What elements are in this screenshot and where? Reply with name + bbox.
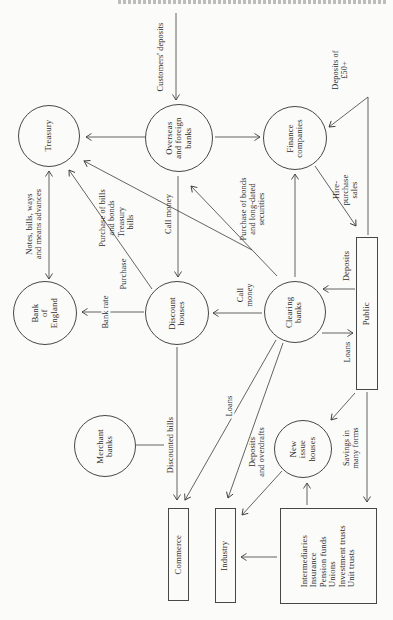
node-discount-houses: Discount houses (145, 281, 209, 345)
node-label-treasury: Treasury (44, 120, 53, 152)
edge-label-savings-many-forms: Savings in many forms (342, 427, 360, 468)
edge-label-customers-deposits: Customers' deposits (156, 23, 165, 92)
edge-public-to-new-issue (331, 393, 355, 420)
edge-label-bank-rate: Bank rate (101, 293, 110, 330)
node-label-industry: Industry (221, 540, 230, 570)
node-new-issue-houses: New issue houses (274, 420, 332, 478)
edge-label-deposits-public: Deposits (342, 251, 351, 281)
node-intermediaries: Intermediaries Insurance Pension funds U… (280, 508, 377, 604)
edge-label-notes-bills-ways: Notes, bills, ways and means advances (25, 189, 43, 259)
edge-label-purchase-bonds-long-dated: Purchase of bonds and long-dated securit… (239, 177, 267, 240)
scanned-diagram-page: TreasuryOverseas and foreign banksFinanc… (0, 0, 393, 620)
edge-label-treasury-bills: Treasury bills (117, 207, 135, 237)
edge-label-purchase: Purchase (119, 258, 128, 289)
node-label-bank-of-england: Bank of England (31, 298, 59, 328)
edge-label-deposits-and-overdrafts: Deposits and overdrafts (248, 427, 266, 477)
edge-label-loans-public: Loans (343, 342, 352, 363)
edge-label-purchase-bills-bonds: Purchase of bills and bonds (98, 189, 116, 247)
node-bank-of-england: Bank of England (13, 281, 77, 345)
node-label-merchant-banks: Merchant banks (96, 429, 115, 464)
node-label-clearing-banks: Clearing banks (286, 296, 305, 327)
node-finance-companies: Finance companies (263, 106, 327, 170)
node-label-overseas-foreign-banks: Overseas and foreign banks (165, 117, 193, 158)
node-label-finance-companies: Finance companies (286, 119, 305, 158)
edge-label-deposits-of-50: Deposits of £50+ (331, 44, 349, 97)
edge-label-loans-commerce: Loans (225, 394, 234, 419)
node-label-intermediaries: Intermediaries Insurance Pension funds U… (300, 525, 356, 587)
node-merchant-banks: Merchant banks (74, 415, 136, 477)
node-label-new-issue-houses: New issue houses (289, 437, 317, 462)
edge-label-hire-purchase-sales: Hire- purchase sales (332, 175, 360, 206)
edge-public-to-finance-deposits50 (329, 97, 368, 235)
edge-label-call-money-1: Call money (164, 194, 173, 234)
node-public: Public (356, 237, 378, 390)
node-treasury: Treasury (18, 105, 80, 167)
node-label-discount-houses: Discount houses (168, 297, 187, 330)
node-commerce: Commerce (168, 508, 189, 601)
node-label-public: Public (362, 302, 371, 325)
edge-new-issue-to-industry (242, 471, 282, 515)
node-clearing-banks: Clearing banks (264, 281, 326, 343)
node-industry: Industry (215, 508, 236, 603)
node-label-commerce: Commerce (174, 535, 183, 574)
edge-label-call-money-2: Call money (236, 283, 254, 306)
edge-label-discounted-bills: Discounted bills (166, 417, 175, 473)
node-overseas-foreign-banks: Overseas and foreign banks (145, 104, 213, 172)
